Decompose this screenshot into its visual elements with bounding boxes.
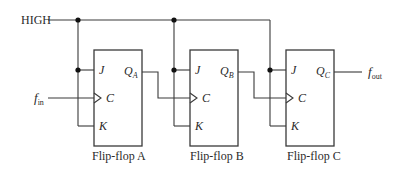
ff-c-k-pin: K bbox=[291, 120, 299, 132]
clock-triangle-icon bbox=[94, 93, 101, 103]
ff-c-j-pin: J bbox=[291, 64, 296, 76]
ff-a-c-pin: C bbox=[106, 92, 114, 104]
clock-triangle-icon bbox=[286, 93, 293, 103]
ff-a-k-pin: K bbox=[99, 120, 107, 132]
ff-b-caption: Flip-flop B bbox=[190, 150, 244, 162]
junction-dot-icon bbox=[75, 67, 80, 72]
clock-in-label: fin bbox=[34, 91, 44, 107]
ff-c-caption: Flip-flop C bbox=[287, 150, 341, 162]
ff-a-q-label: QA bbox=[124, 65, 138, 80]
ff-c-q-label: QC bbox=[316, 65, 330, 80]
junction-dot-icon bbox=[75, 17, 80, 22]
ff-a-j-pin: J bbox=[99, 64, 104, 76]
junction-dot-icon bbox=[267, 67, 272, 72]
ff-b-k-pin: K bbox=[195, 120, 203, 132]
ff-b-c-pin: C bbox=[202, 92, 210, 104]
qa-to-cb-wire bbox=[142, 72, 190, 98]
circuit-diagram bbox=[0, 0, 406, 169]
junction-dot-icon bbox=[171, 17, 176, 22]
ff-b-q-label: QB bbox=[220, 65, 234, 80]
ff-c-c-pin: C bbox=[298, 92, 306, 104]
junction-dot-icon bbox=[171, 67, 176, 72]
high-label: HIGH bbox=[21, 14, 51, 26]
clock-out-label: fout bbox=[368, 65, 382, 81]
ff-a-caption: Flip-flop A bbox=[92, 150, 146, 162]
qb-to-cc-wire bbox=[238, 72, 286, 98]
ff-b-j-pin: J bbox=[195, 64, 200, 76]
clock-triangle-icon bbox=[190, 93, 197, 103]
